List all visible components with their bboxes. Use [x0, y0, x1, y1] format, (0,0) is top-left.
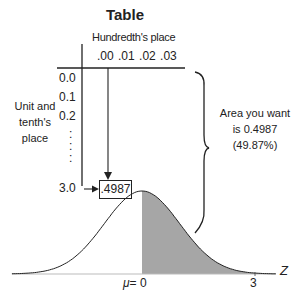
shaded-area [142, 191, 255, 274]
mean-label: μ= 0 [123, 276, 147, 290]
z-value-label: 3 [250, 276, 257, 290]
down-arrow-icon [104, 172, 112, 180]
brace-icon [195, 72, 209, 233]
diagram-graphics [0, 0, 299, 300]
right-arrow-icon [92, 186, 99, 193]
z-axis-label: Z [280, 263, 288, 278]
